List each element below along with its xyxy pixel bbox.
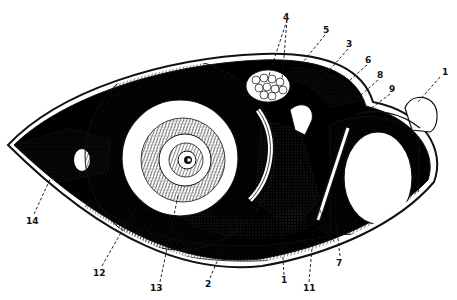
label-3: 3 [346,39,352,49]
granular-cluster [246,70,290,102]
right-chamber [318,117,420,235]
label-13: 13 [150,283,163,293]
label-11: 11 [303,283,316,293]
label-4: 4 [283,12,289,22]
label-2: 2 [205,279,211,289]
label-1-top: 1 [442,67,448,77]
label-7: 7 [336,258,342,268]
label-5: 5 [323,25,329,35]
label-14: 14 [26,216,39,226]
label-12: 12 [93,268,106,278]
ear-cross-section-diagram: 4 5 3 6 8 9 1 14 12 13 2 1 11 7 [0,0,457,300]
label-6: 6 [365,55,371,65]
label-9: 9 [389,84,395,94]
label-8: 8 [377,70,383,80]
label-1-bottom: 1 [281,275,287,285]
